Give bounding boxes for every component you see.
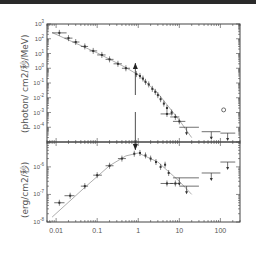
data-point [202, 173, 221, 181]
spectrum-chart: 10310210110010-110-210-310-410-610-710-8… [0, 0, 256, 254]
data-point [52, 30, 66, 36]
y-tick-label: 10-1 [33, 78, 44, 86]
data-point [171, 110, 173, 116]
panel-bottom: 10-610-710-80.010.1110100 [33, 112, 240, 234]
y-tick-label: 10-7 [33, 189, 44, 197]
arrow-down-icon [133, 112, 138, 150]
x-tick-label: 100 [215, 227, 227, 234]
bottom-panel-y-axis-label: (erg/cm2/秒) [18, 162, 31, 218]
x-tick-label: 0.01 [49, 227, 63, 234]
y-tick-label: 10-8 [33, 217, 44, 225]
data-point [179, 186, 199, 194]
data-point [151, 86, 153, 92]
data-point [202, 132, 221, 140]
model-curve [52, 153, 192, 217]
x-tick-label: 1 [136, 227, 140, 234]
y-tick-label: 103 [35, 19, 45, 27]
data-point [170, 180, 179, 186]
y-tick-label: 100 [35, 63, 45, 71]
data-point [150, 156, 152, 162]
y-tick-label: 10-2 [33, 93, 44, 101]
y-tick-label: 10-3 [33, 108, 44, 116]
top-panel-y-axis-label: (photon/ cm2/秒/MeV) [18, 34, 31, 133]
y-tick-label: 101 [35, 49, 45, 57]
circle-marker-icon [222, 108, 226, 112]
model-curve [52, 33, 192, 138]
data-point [220, 133, 235, 141]
panel-top: 10310210110010-110-210-310-4 [33, 19, 240, 142]
data-point [164, 162, 166, 168]
data-point [90, 48, 98, 54]
y-tick-label: 10-4 [33, 122, 44, 130]
x-tick-label: 10 [175, 227, 183, 234]
data-point [155, 159, 157, 165]
data-point [97, 52, 105, 58]
x-tick-label: 0.1 [92, 227, 102, 234]
data-point [173, 118, 185, 124]
data-point [144, 152, 146, 158]
data-point [139, 150, 141, 156]
data-point [64, 35, 72, 41]
arrow-up-icon [133, 63, 138, 95]
data-point [106, 56, 114, 62]
data-point [54, 200, 64, 206]
data-point [148, 81, 150, 87]
data-point [142, 76, 144, 82]
data-point [220, 162, 235, 170]
data-point [133, 151, 135, 157]
data-point [139, 73, 141, 79]
y-tick-label: 10-6 [33, 162, 44, 170]
data-point [144, 79, 146, 85]
y-tick-label: 102 [35, 34, 45, 42]
